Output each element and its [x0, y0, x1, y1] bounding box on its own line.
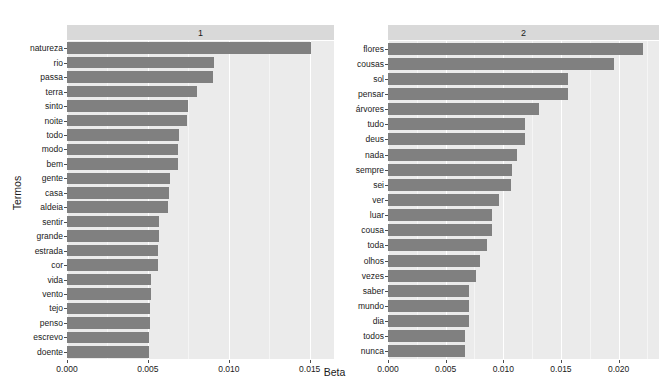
y-axis-tick — [64, 294, 67, 295]
y-axis-tick — [385, 170, 388, 171]
bar — [388, 285, 469, 297]
x-axis-tick-label: 0.000 — [56, 364, 77, 374]
y-axis-tick-label: árvores — [356, 104, 384, 114]
x-axis-tick — [388, 360, 389, 363]
facet-bar-chart: Termos Beta 1naturezariopassaterrasinton… — [0, 0, 669, 386]
y-axis-tick-label: flores — [363, 44, 384, 54]
bar — [67, 158, 178, 170]
x-axis: 0.0000.0050.0100.015 — [67, 360, 334, 374]
y-axis-tick — [64, 164, 67, 165]
bar — [67, 230, 159, 242]
y-axis-tick — [385, 64, 388, 65]
y-axis-tick-label: terra — [46, 87, 63, 97]
bar — [388, 345, 465, 357]
gridline-minor — [269, 41, 270, 359]
y-axis-tick — [385, 139, 388, 140]
bar — [388, 103, 539, 115]
gridline-minor — [647, 41, 648, 359]
x-axis-tick-label: 0.005 — [137, 364, 158, 374]
y-axis-tick-label: nada — [365, 150, 384, 160]
x-axis-tick-label: 0.005 — [435, 364, 456, 374]
bar — [388, 330, 465, 342]
y-axis-tick — [385, 351, 388, 352]
bar — [67, 332, 149, 344]
y-axis-tick — [64, 77, 67, 78]
y-axis-tick — [385, 49, 388, 50]
bar — [388, 255, 480, 267]
y-axis-tick — [385, 276, 388, 277]
bar — [388, 73, 568, 85]
y-axis-tick — [385, 261, 388, 262]
y-axis-tick-label: pensar — [358, 89, 384, 99]
y-axis-tick — [385, 230, 388, 231]
bar — [388, 224, 492, 236]
y-axis-tick-label: tudo — [367, 119, 384, 129]
y-axis-tick — [64, 135, 67, 136]
bar — [388, 43, 643, 55]
plot-panel — [388, 41, 659, 359]
y-axis-tick — [385, 155, 388, 156]
x-axis: 0.0000.0050.0100.0150.020 — [388, 360, 659, 374]
bar — [388, 88, 568, 100]
x-axis-tick-label: 0.020 — [608, 364, 629, 374]
y-axis-tick — [385, 185, 388, 186]
gridline-major — [619, 41, 620, 359]
y-axis-tick-label: toda — [367, 240, 384, 250]
bar — [67, 288, 151, 300]
y-axis-tick-label: deus — [366, 134, 384, 144]
y-axis-tick-label: sinto — [45, 101, 63, 111]
y-axis-tick-label: cousa — [361, 225, 384, 235]
bar — [67, 346, 149, 358]
y-axis-tick — [385, 321, 388, 322]
y-axis-tick — [64, 236, 67, 237]
y-axis-tick-label: sempre — [356, 165, 384, 175]
y-axis-tick — [385, 291, 388, 292]
y-axis-tick-label: estrada — [35, 246, 63, 256]
bar — [67, 245, 158, 257]
bar — [388, 133, 525, 145]
y-axis-tick-label: olhos — [364, 256, 384, 266]
bar — [67, 86, 197, 98]
y-axis-tick-label: vida — [47, 275, 63, 285]
bar — [67, 216, 159, 228]
bar — [388, 179, 511, 191]
x-axis-tick-label: 0.000 — [377, 364, 398, 374]
y-axis-tick — [64, 308, 67, 309]
y-axis-title: Termos — [8, 0, 26, 386]
gridline-major — [310, 41, 311, 359]
bar — [388, 239, 487, 251]
y-axis-tick-label: tejo — [49, 303, 63, 313]
y-axis-tick — [64, 121, 67, 122]
y-axis-tick-label: ver — [372, 195, 384, 205]
y-axis-tick-label: casa — [45, 188, 63, 198]
plot-panel — [67, 41, 334, 359]
y-axis-tick — [64, 106, 67, 107]
y-axis-tick-label: sentir — [42, 217, 63, 227]
y-axis-tick — [385, 336, 388, 337]
bar — [388, 194, 499, 206]
y-axis-tick — [385, 109, 388, 110]
bar — [67, 187, 169, 199]
x-axis-tick-label: 0.015 — [550, 364, 571, 374]
y-axis-tick-label: nunca — [361, 346, 384, 356]
y-axis-tick — [64, 193, 67, 194]
y-axis-tick-label: doente — [37, 347, 63, 357]
y-axis-tick-label: cor — [51, 260, 63, 270]
bar — [67, 71, 213, 83]
y-axis-tick-label: vezes — [362, 271, 384, 281]
x-axis-tick-label: 0.010 — [493, 364, 514, 374]
bar — [67, 317, 150, 329]
bar — [388, 58, 614, 70]
bar — [67, 201, 168, 213]
y-axis-tick — [64, 323, 67, 324]
y-axis-tick — [64, 265, 67, 266]
y-axis-tick — [64, 337, 67, 338]
y-axis-tick — [64, 280, 67, 281]
y-axis-tick-label: passa — [40, 72, 63, 82]
x-axis-tick — [229, 360, 230, 363]
x-axis-tick — [561, 360, 562, 363]
y-axis-tick — [64, 178, 67, 179]
y-axis-tick — [64, 92, 67, 93]
y-axis-tick — [385, 79, 388, 80]
y-axis-tick-label: sei — [373, 180, 384, 190]
